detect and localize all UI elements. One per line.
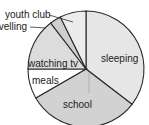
pie-chart: sleeping school meals watching tv travel…	[0, 0, 149, 125]
label-sleeping: sleeping	[101, 53, 138, 64]
label-travelling: travelling	[0, 21, 27, 32]
leader-line-travelling	[30, 27, 46, 28]
label-youth-club: youth club	[5, 9, 51, 20]
label-watching-tv: watching tv	[27, 58, 78, 69]
label-meals: meals	[32, 75, 59, 86]
label-school: school	[63, 99, 92, 110]
